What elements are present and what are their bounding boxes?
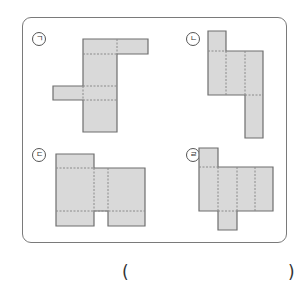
answer-open-paren: ( — [122, 262, 129, 282]
net-c[interactable] — [56, 154, 145, 226]
cuboid-nets — [0, 0, 308, 294]
net-b[interactable] — [208, 31, 263, 138]
answer-close-paren: ) — [288, 262, 295, 282]
net-d[interactable] — [199, 148, 273, 230]
